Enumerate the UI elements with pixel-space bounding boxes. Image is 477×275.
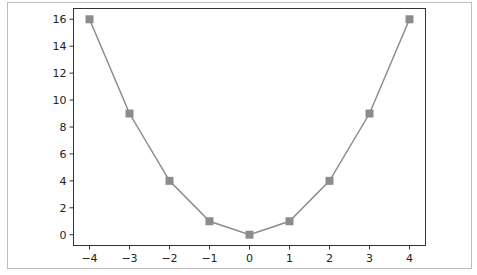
square-marker-icon bbox=[166, 177, 174, 185]
square-marker-icon bbox=[86, 15, 94, 23]
y-tick-label: 4 bbox=[60, 175, 67, 188]
square-marker-icon bbox=[326, 177, 334, 185]
y-tick-label: 8 bbox=[60, 121, 67, 134]
line-chart: −4−3−2−101234 0246810121416 bbox=[0, 0, 477, 275]
y-tick-label: 2 bbox=[60, 202, 67, 215]
x-tick-label: 0 bbox=[246, 252, 253, 265]
x-tick-label: 4 bbox=[406, 252, 413, 265]
x-tick-label: −1 bbox=[201, 252, 217, 265]
x-tick-label: 1 bbox=[286, 252, 293, 265]
square-marker-icon bbox=[246, 231, 254, 239]
x-tick-label: −3 bbox=[121, 252, 137, 265]
y-tick-label: 14 bbox=[53, 40, 67, 53]
square-marker-icon bbox=[286, 217, 294, 225]
y-tick-label: 12 bbox=[53, 67, 67, 80]
x-tick-label: 3 bbox=[366, 252, 373, 265]
x-axis: −4−3−2−101234 bbox=[81, 246, 413, 265]
square-marker-icon bbox=[406, 15, 414, 23]
square-marker-icon bbox=[206, 217, 214, 225]
y-tick-label: 6 bbox=[60, 148, 67, 161]
x-tick-label: −4 bbox=[81, 252, 97, 265]
y-tick-label: 10 bbox=[53, 94, 67, 107]
y-tick-label: 16 bbox=[53, 13, 67, 26]
square-marker-icon bbox=[366, 110, 374, 118]
square-marker-icon bbox=[126, 110, 134, 118]
y-tick-label: 0 bbox=[60, 229, 67, 242]
plot-area bbox=[74, 9, 426, 246]
x-tick-label: 2 bbox=[326, 252, 333, 265]
y-axis: 0246810121416 bbox=[53, 13, 74, 241]
x-tick-label: −2 bbox=[161, 252, 177, 265]
